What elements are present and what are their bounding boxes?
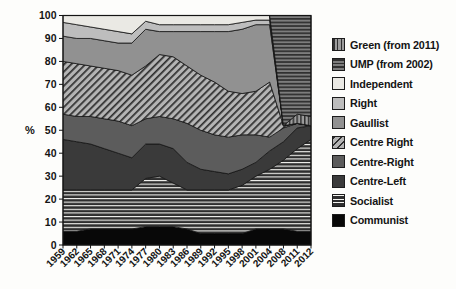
legend-label: Independent	[350, 78, 413, 90]
legend-item-independent: Independent	[332, 74, 439, 94]
y-tick-label: 80	[45, 55, 57, 67]
y-tick-label: 30	[45, 170, 57, 182]
legend-label: UMP (from 2002)	[350, 58, 433, 70]
y-tick-label: 100	[39, 9, 57, 21]
legend-swatch-right	[332, 97, 345, 110]
legend-swatch-green	[332, 38, 345, 51]
legend-label: Centre Right	[350, 136, 413, 148]
senate-party-composition-figure: 0102030405060708090100%19591962196519681…	[0, 0, 456, 289]
legend-item-centre_left: Centre-Left	[332, 172, 439, 192]
legend-label: Socialist	[350, 195, 393, 207]
legend: Green (from 2011)UMP (from 2002)Independ…	[332, 35, 439, 230]
y-tick-label: 60	[45, 101, 57, 113]
y-tick-label: 20	[45, 193, 57, 205]
legend-item-centre_right_hatch: Centre Right	[332, 133, 439, 153]
legend-swatch-independent	[332, 77, 345, 90]
legend-label: Right	[350, 97, 377, 109]
area-communist	[63, 227, 311, 245]
legend-swatch-centre_right_hatch	[332, 136, 345, 149]
legend-item-centre_right: Centre-Right	[332, 152, 439, 172]
legend-swatch-ump	[332, 58, 345, 71]
legend-swatch-gaullist	[332, 116, 345, 129]
y-tick-label: 40	[45, 147, 57, 159]
legend-item-gaullist: Gaullist	[332, 113, 439, 133]
y-tick-label: 50	[45, 124, 57, 136]
legend-item-socialist: Socialist	[332, 191, 439, 211]
legend-swatch-centre_right	[332, 155, 345, 168]
legend-swatch-centre_left	[332, 175, 345, 188]
y-tick-label: 90	[45, 32, 57, 44]
legend-item-green: Green (from 2011)	[332, 35, 439, 55]
legend-item-communist: Communist	[332, 211, 439, 231]
legend-label: Gaullist	[350, 117, 388, 129]
legend-item-right: Right	[332, 94, 439, 114]
y-tick-label: 10	[45, 216, 57, 228]
legend-item-ump: UMP (from 2002)	[332, 55, 439, 75]
legend-swatch-communist	[332, 214, 345, 227]
y-tick-label: 70	[45, 78, 57, 90]
legend-label: Green (from 2011)	[350, 39, 439, 51]
legend-label: Centre-Right	[350, 156, 414, 168]
y-axis-title: %	[25, 124, 35, 136]
legend-swatch-socialist	[332, 194, 345, 207]
legend-label: Communist	[350, 214, 408, 226]
legend-label: Centre-Left	[350, 175, 406, 187]
